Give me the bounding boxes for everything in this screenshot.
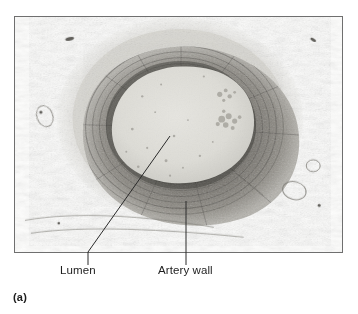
artery-cross-section-micrograph	[15, 17, 342, 252]
panel-letter: (a)	[13, 291, 27, 303]
label-lumen: Lumen	[60, 264, 96, 277]
label-artery-wall: Artery wall	[158, 264, 213, 277]
micrograph-frame	[14, 16, 343, 253]
figure-panel-a: Lumen Artery wall (a)	[0, 0, 358, 314]
